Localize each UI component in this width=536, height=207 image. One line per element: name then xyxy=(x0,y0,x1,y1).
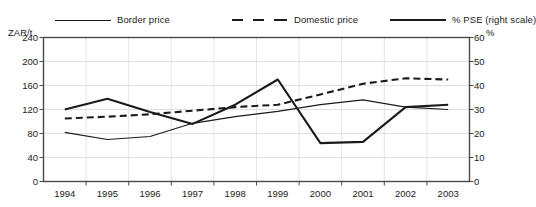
x-axis-tick-label: 1996 xyxy=(128,189,172,199)
right-axis-tick-label: 10 xyxy=(474,153,502,163)
x-axis-tick-label: 1995 xyxy=(85,189,129,199)
right-axis-tick-label: 60 xyxy=(474,33,502,43)
left-axis-tick-label: 160 xyxy=(10,81,38,91)
right-axis-tick-label: 0 xyxy=(474,177,502,187)
x-axis-tick-label: 1999 xyxy=(256,189,300,199)
x-axis-tick-label: 2001 xyxy=(341,189,385,199)
x-axis-tick-label: 1998 xyxy=(213,189,257,199)
right-axis-tick-label: 40 xyxy=(474,81,502,91)
left-axis-tick-label: 200 xyxy=(10,57,38,67)
left-axis-tick-label: 0 xyxy=(10,177,38,187)
x-axis-tick-label: 1997 xyxy=(171,189,215,199)
left-axis-tick-label: 120 xyxy=(10,105,38,115)
right-axis-tick-label: 50 xyxy=(474,57,502,67)
right-axis-tick-label: 30 xyxy=(474,105,502,115)
x-axis-tick-label: 2000 xyxy=(298,189,342,199)
x-axis-tick-label: 1994 xyxy=(43,189,87,199)
x-axis-tick-label: 2003 xyxy=(426,189,470,199)
left-axis-tick-label: 80 xyxy=(10,129,38,139)
left-axis-tick-label: 240 xyxy=(10,33,38,43)
gridlines xyxy=(44,38,470,182)
right-axis-tick-label: 20 xyxy=(474,129,502,139)
left-axis-tick-label: 40 xyxy=(10,153,38,163)
x-axis-tick-label: 2002 xyxy=(384,189,428,199)
